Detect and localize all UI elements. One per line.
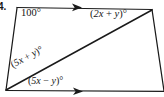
quad-bottom-side bbox=[6, 91, 164, 92]
geometry-figure: 4. 100° (2x + y)° (5x + y)° (5x − y)° bbox=[0, 0, 164, 97]
angle-label-diagonal-lower: (5x − y)° bbox=[28, 76, 63, 86]
angle-label-top-left: 100° bbox=[21, 8, 41, 19]
coefficient-term: 5x bbox=[31, 75, 40, 86]
coefficient-term: 2x bbox=[94, 8, 104, 19]
operator: − bbox=[41, 75, 52, 86]
paren-close-degree: )° bbox=[119, 8, 127, 19]
angle-label-top-right: (2x + y)° bbox=[90, 9, 127, 20]
problem-number-label: 4. bbox=[0, 2, 6, 12]
paren-close-degree: )° bbox=[56, 75, 63, 86]
top-side-arrowhead-icon bbox=[72, 4, 82, 12]
quad-right-side bbox=[152, 10, 164, 92]
operator: + bbox=[103, 8, 114, 19]
quad-left-side bbox=[6, 8, 17, 90]
